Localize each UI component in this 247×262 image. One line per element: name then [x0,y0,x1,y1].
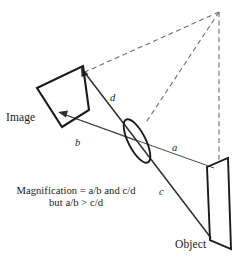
optics-diagram-figure: Image Object a b c d Magnification = a/b… [0,0,247,262]
ray-b-arrowhead [58,111,68,118]
image-plane-label: Image [6,111,35,124]
image-plane-quadrilateral [37,66,89,127]
light-rays [58,67,214,238]
dashed-line-apex-to-lens [145,12,219,124]
object-plane-label: Object [175,238,206,251]
ray-c-line [137,141,211,238]
ray-a-label: a [172,142,177,154]
ray-b-label: b [75,137,80,149]
ray-c-label: c [159,186,164,198]
ray-d-label: d [110,92,115,104]
object-plane-parallelogram [207,158,231,249]
magnification-formula-line-2: but a/b > c/d [8,197,144,209]
scheimpflug-dashed-lines [85,12,219,163]
magnification-annotation: Magnification = a/b and c/d but a/b > c/… [8,185,144,209]
optics-diagram-canvas [0,0,247,262]
magnification-formula-line-1: Magnification = a/b and c/d [8,185,144,197]
